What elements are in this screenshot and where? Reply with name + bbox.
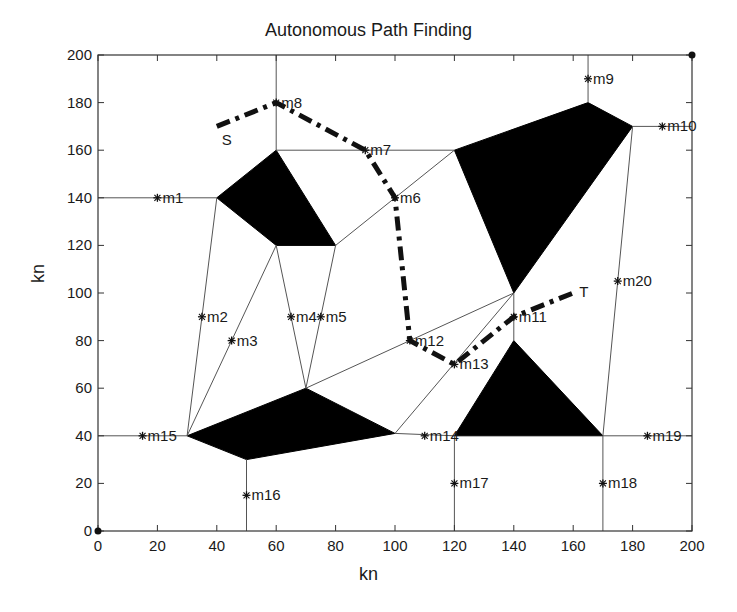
milestone-m16: m16 xyxy=(243,486,281,503)
milestone-label: m2 xyxy=(207,308,228,325)
y-tick-label: 100 xyxy=(67,284,92,301)
milestone-label: m8 xyxy=(281,94,302,111)
milestone-label: m6 xyxy=(400,189,421,206)
milestone-m6: m6 xyxy=(391,189,421,206)
x-tick-label: 120 xyxy=(442,537,467,554)
plot-area: 0204060801001201401601802000204060801001… xyxy=(0,0,737,612)
obstacles-layer xyxy=(187,103,632,460)
y-tick-label: 200 xyxy=(67,46,92,63)
milestone-m10: m10 xyxy=(658,117,696,134)
milestone-label: m13 xyxy=(459,355,488,372)
obstacle-1 xyxy=(217,150,336,245)
milestone-m19: m19 xyxy=(643,427,681,444)
target-label: T xyxy=(579,283,588,300)
milestone-m5: m5 xyxy=(317,308,347,325)
milestone-m14: m14 xyxy=(421,427,459,444)
milestone-label: m20 xyxy=(623,272,652,289)
x-tick-label: 20 xyxy=(149,537,166,554)
y-tick-label: 60 xyxy=(75,379,92,396)
x-tick-label: 80 xyxy=(327,537,344,554)
y-tick-label: 0 xyxy=(84,522,92,539)
milestone-m1: m1 xyxy=(153,189,183,206)
milestone-label: m17 xyxy=(459,474,488,491)
milestone-label: m7 xyxy=(370,141,391,158)
milestone-label: m9 xyxy=(593,70,614,87)
x-tick-label: 160 xyxy=(561,537,586,554)
milestone-m13: m13 xyxy=(450,355,488,372)
milestone-label: m5 xyxy=(326,308,347,325)
milestone-label: m10 xyxy=(667,117,696,134)
milestone-label: m11 xyxy=(519,308,547,325)
y-tick-label: 160 xyxy=(67,141,92,158)
milestone-label: m18 xyxy=(608,474,637,491)
x-tick-label: 60 xyxy=(268,537,285,554)
milestone-label: m16 xyxy=(252,486,281,503)
x-tick-label: 100 xyxy=(382,537,407,554)
milestone-label: m12 xyxy=(415,332,444,349)
corner-dot-marker xyxy=(95,528,102,535)
x-tick-label: 180 xyxy=(620,537,645,554)
milestone-label: m19 xyxy=(652,427,681,444)
y-tick-label: 80 xyxy=(75,332,92,349)
milestone-m7: m7 xyxy=(361,141,391,158)
milestone-m11: m11 xyxy=(510,308,547,325)
chart-figure: Autonomous Path Finding kn kn 0204060801… xyxy=(0,0,737,612)
milestone-label: m14 xyxy=(430,427,459,444)
obstacle-3 xyxy=(187,388,395,459)
x-tick-label: 140 xyxy=(501,537,526,554)
milestone-label: m3 xyxy=(237,332,258,349)
y-tick-label: 40 xyxy=(75,427,92,444)
y-tick-label: 120 xyxy=(67,236,92,253)
milestone-label: m15 xyxy=(148,427,177,444)
x-tick-label: 0 xyxy=(94,537,102,554)
milestone-m18: m18 xyxy=(599,474,637,491)
milestone-m4: m4 xyxy=(287,308,317,325)
y-tick-label: 140 xyxy=(67,189,92,206)
milestone-m3: m3 xyxy=(228,332,258,349)
obstacle-2 xyxy=(454,103,632,293)
milestone-label: m4 xyxy=(296,308,317,325)
milestone-label: m1 xyxy=(162,189,183,206)
start-label: S xyxy=(222,131,232,148)
y-tick-label: 20 xyxy=(75,474,92,491)
milestone-m15: m15 xyxy=(139,427,177,444)
x-tick-label: 40 xyxy=(208,537,225,554)
x-tick-label: 200 xyxy=(679,537,704,554)
milestone-m12: m12 xyxy=(406,332,444,349)
corner-dot-marker xyxy=(689,52,696,59)
milestone-m20: m20 xyxy=(614,272,652,289)
milestone-m17: m17 xyxy=(450,474,488,491)
y-tick-label: 180 xyxy=(67,94,92,111)
